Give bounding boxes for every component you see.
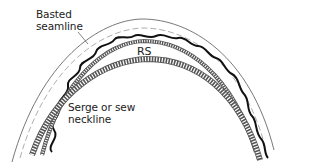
serge-neckline-label-line1: Serge or sew xyxy=(68,101,135,113)
basted-seamline-label: Basted seamline xyxy=(36,8,83,32)
inner-serge-band-fill xyxy=(32,59,260,160)
inner-serge-band xyxy=(32,59,260,160)
basted-seamline-label-line1: Basted xyxy=(36,8,83,20)
basted-leader-line xyxy=(78,32,88,44)
right-side-label: RS xyxy=(137,46,151,58)
serge-neckline-label: Serge or sew neckline xyxy=(68,101,135,125)
basted-seamline-label-line2: seamline xyxy=(36,20,83,32)
basted-seamline-wave xyxy=(50,35,268,158)
serge-neckline-label-line2: neckline xyxy=(68,113,135,125)
